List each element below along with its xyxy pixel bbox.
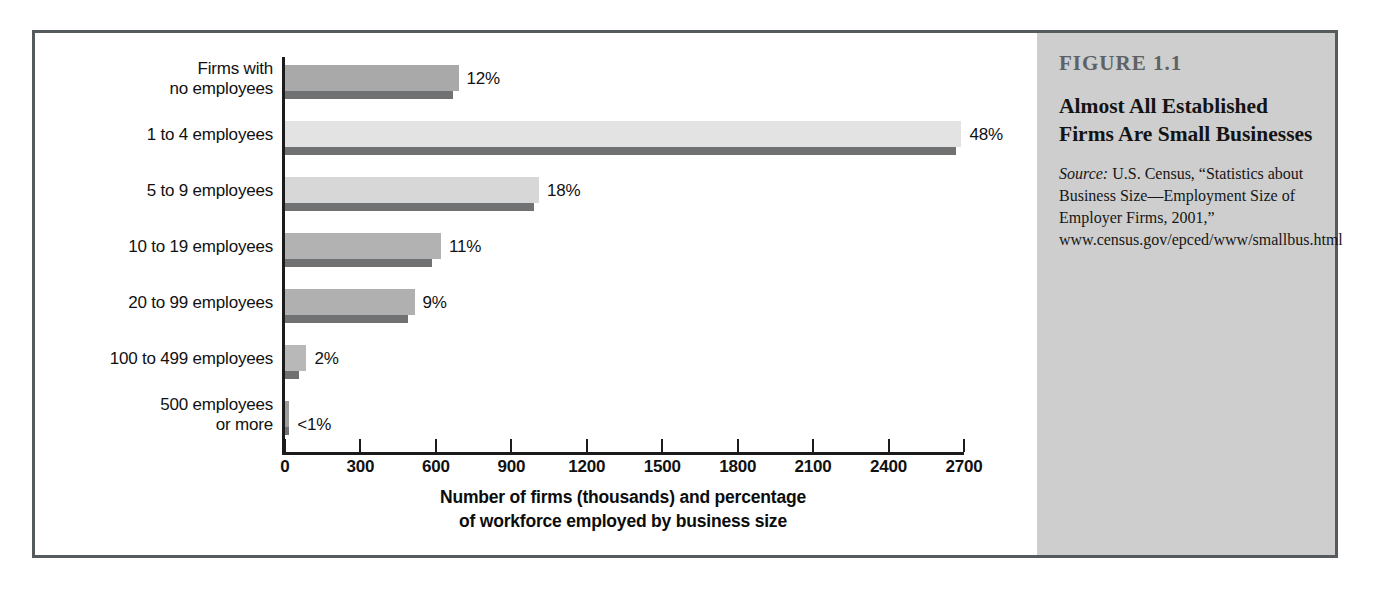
category-label: Firms withno employees [43,59,273,99]
category-label-line: or more [43,415,273,435]
category-label-line: Firms with [43,59,273,79]
firm-count-bar [285,65,459,91]
x-tick-label: 300 [330,457,390,477]
workforce-percent-bar [285,91,453,99]
category-label-line: 10 to 19 employees [43,237,273,257]
workforce-percent-bar [285,203,534,211]
category-label-line: 1 to 4 employees [43,125,273,145]
x-tick-label: 1200 [557,457,617,477]
category-label: 20 to 99 employees [43,293,273,313]
percent-label: 2% [314,349,338,369]
workforce-percent-bar [285,259,432,267]
firm-count-bar [285,121,961,147]
percent-label: 18% [547,181,580,201]
workforce-percent-bar [285,371,299,379]
chart-area: 0300600900120015001800210024002700 Firms… [35,33,1037,555]
category-label: 1 to 4 employees [43,125,273,145]
x-tick-label: 1800 [708,457,768,477]
percent-label: 9% [423,293,447,313]
x-axis-title-line2: of workforce employed by business size [282,509,964,533]
category-label-line: 5 to 9 employees [43,181,273,201]
category-label-line: no employees [43,79,273,99]
bar-chart-plot: 0300600900120015001800210024002700 Firms… [35,33,1037,555]
bar-row: Firms withno employees12% [35,63,1037,119]
figure-source: Source: U.S. Census, “Statistics about B… [1059,163,1313,251]
percent-label: 11% [449,237,481,257]
figure-frame: 0300600900120015001800210024002700 Firms… [32,30,1338,558]
workforce-percent-bar [285,147,956,155]
bar-row: 10 to 19 employees11% [35,231,1037,287]
x-tick-label: 2400 [859,457,919,477]
bar-row: 20 to 99 employees9% [35,287,1037,343]
caption-panel: FIGURE 1.1 Almost All Established Firms … [1037,33,1335,555]
firm-count-bar [285,177,539,203]
firm-count-bar [285,345,306,371]
x-tick-label: 2700 [934,457,994,477]
source-word: Source: [1059,165,1108,182]
bar-row: 5 to 9 employees18% [35,175,1037,231]
workforce-percent-bar [285,315,408,323]
percent-label: <1% [297,415,331,435]
category-label: 100 to 499 employees [43,349,273,369]
workforce-percent-bar [285,427,289,435]
firm-count-bar [285,289,415,315]
bar-row: 100 to 499 employees2% [35,343,1037,399]
x-axis-title-line1: Number of firms (thousands) and percenta… [282,485,964,509]
x-tick-label: 2100 [783,457,843,477]
category-label: 10 to 19 employees [43,237,273,257]
firm-count-bar [285,233,441,259]
x-tick-label: 600 [406,457,466,477]
figure-number: FIGURE 1.1 [1059,51,1313,76]
x-tick-label: 1500 [632,457,692,477]
category-label-line: 500 employees [43,395,273,415]
percent-label: 12% [467,69,500,89]
x-tick-label: 900 [481,457,541,477]
firm-count-bar [285,401,289,427]
category-label: 500 employeesor more [43,395,273,435]
bar-row: 1 to 4 employees48% [35,119,1037,175]
bar-row: 500 employeesor more<1% [35,399,1037,455]
x-tick-label: 0 [255,457,315,477]
category-label-line: 100 to 499 employees [43,349,273,369]
figure-title: Almost All Established Firms Are Small B… [1059,92,1313,148]
x-axis-title: Number of firms (thousands) and percenta… [282,485,964,533]
category-label: 5 to 9 employees [43,181,273,201]
percent-label: 48% [969,125,1002,145]
category-label-line: 20 to 99 employees [43,293,273,313]
